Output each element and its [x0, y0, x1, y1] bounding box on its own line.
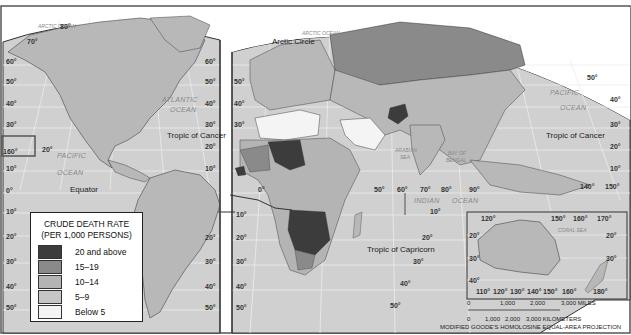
lon-label: 70° [420, 186, 431, 193]
lat-label: 50° [234, 78, 245, 85]
lat-label: 50° [390, 302, 401, 309]
lat-label: 40° [205, 283, 216, 290]
lat-label: 10° [610, 165, 621, 172]
lat-label: 50° [236, 304, 247, 311]
inset-lat: 30° [606, 255, 617, 262]
indian-label-2: OCEAN [452, 197, 478, 204]
inset-lon: 150° [543, 288, 557, 295]
inset-lon: 160° [573, 215, 587, 222]
prime-meridian-label: 0° [258, 186, 265, 193]
lon-label: 150° [605, 183, 619, 190]
lat-label: 60° [6, 58, 17, 65]
lat-label: 10° [205, 165, 216, 172]
legend-swatch [38, 260, 62, 274]
legend-label: 20 and above [75, 247, 127, 257]
pacific-right-label-1: PACIFIC [550, 89, 579, 96]
tropic-capricorn-label: Tropic of Capricorn [367, 245, 435, 254]
lat-label: 20° [42, 146, 53, 153]
lat-label: 30° [6, 258, 17, 265]
inset-lon: 120° [493, 288, 507, 295]
lat-label: 10° [6, 165, 17, 172]
scale-miles: 3,000 MILES [561, 300, 596, 306]
scale-km: 2,000 [505, 316, 520, 322]
legend-swatch [38, 245, 62, 259]
inset-lat: 30° [469, 255, 480, 262]
inset-lat: 20° [606, 232, 617, 239]
scale-miles: 1,000 [500, 300, 515, 306]
legend-label: 5–9 [75, 292, 89, 302]
legend-item: 5–9 [38, 290, 138, 305]
inset-lat: 20° [469, 232, 480, 239]
legend-swatch [38, 290, 62, 304]
legend-item: Below 5 [38, 305, 138, 320]
lat-label: 40° [610, 96, 621, 103]
legend-swatch [38, 275, 62, 289]
lat-label: 10° [430, 208, 441, 215]
scale-km: 0 [467, 316, 470, 322]
lat-label: 30° [6, 121, 17, 128]
inset-lon: 110° [476, 288, 490, 295]
lat-label: 20° [6, 233, 17, 240]
lon-label: 60° [397, 186, 408, 193]
lat-label: 30° [236, 258, 247, 265]
hawaii-lon-label: 160° [3, 148, 17, 155]
bay-of-bengal-2: BENGAL [446, 157, 466, 163]
arctic-ocean-label-right: ARCTIC OCEAN [302, 30, 340, 36]
lat-label: 30° [205, 121, 216, 128]
pacific-left-label-2: OCEAN [57, 169, 83, 176]
lat-label: 60° [205, 58, 216, 65]
lat-label: 30° [413, 258, 424, 265]
scale-km: 3,000 KILOMETERS [526, 316, 581, 322]
arabian-sea-1: ARABIAN [395, 147, 417, 153]
legend-label: 15–19 [75, 262, 99, 272]
lat-label: 40° [205, 100, 216, 107]
legend-label: 10–14 [75, 277, 99, 287]
lon-label: 90° [469, 186, 480, 193]
inset-lat: 40° [469, 277, 480, 284]
lat-label: 50° [6, 304, 17, 311]
legend-item: 15–19 [38, 260, 138, 275]
bay-of-bengal-1: BAY OF [448, 150, 466, 156]
scale-km: 1,000 [485, 316, 500, 322]
tropic-cancer-left: Tropic of Cancer [167, 131, 226, 140]
lat-label: 50° [587, 74, 598, 81]
legend-title: CRUDE DEATH RATE (PER 1,000 PERSONS) [31, 219, 142, 241]
lat-label: 40° [236, 283, 247, 290]
lat-label: 40° [234, 100, 245, 107]
arabian-sea-2: SEA [400, 154, 410, 160]
legend-subtitle: (PER 1,000 PERSONS) [31, 230, 142, 241]
inset-lon: 160° [562, 288, 576, 295]
indian-label-1: INDIAN [414, 197, 440, 204]
atlantic-label-1: ATLANTIC [162, 96, 198, 103]
legend-item: 10–14 [38, 275, 138, 290]
inset-lon: 120° [481, 215, 495, 222]
legend-label: Below 5 [75, 307, 105, 317]
lat-label: 50° [205, 78, 216, 85]
pacific-right-label-2: OCEAN [560, 104, 586, 111]
equator-label: Equator [70, 185, 98, 194]
legend-title-line: CRUDE DEATH RATE [31, 219, 142, 230]
projection-label: MODIFIED GOODE'S HOMOLOSINE EQUAL-AREA P… [440, 324, 621, 330]
inset-lon: 130° [510, 288, 524, 295]
lat-label: 30° [205, 258, 216, 265]
scale-miles: 0 [467, 300, 470, 306]
lat-label: 50° [6, 78, 17, 85]
scale-miles: 2,000 [530, 300, 545, 306]
pacific-left-label-1: PACIFIC [57, 152, 86, 159]
atlantic-label-2: OCEAN [170, 106, 196, 113]
lat-label: 10° [6, 208, 17, 215]
lon-label: 80° [441, 186, 452, 193]
lat-label: 20° [205, 143, 216, 150]
lat-label: 30° [234, 121, 245, 128]
lat-label: 20° [205, 234, 216, 241]
lat-label: 20° [236, 234, 247, 241]
inset-lon: 170° [597, 215, 611, 222]
lat-label: 40° [6, 283, 17, 290]
lat-label: 10° [236, 211, 247, 218]
lat-label: 50° [205, 304, 216, 311]
inset-lon: 140° [527, 288, 541, 295]
lon-label: 140° [580, 183, 594, 190]
lat-label: 0° [6, 187, 13, 194]
lat-label: 80° [60, 23, 71, 30]
legend-item: 20 and above [38, 245, 138, 260]
